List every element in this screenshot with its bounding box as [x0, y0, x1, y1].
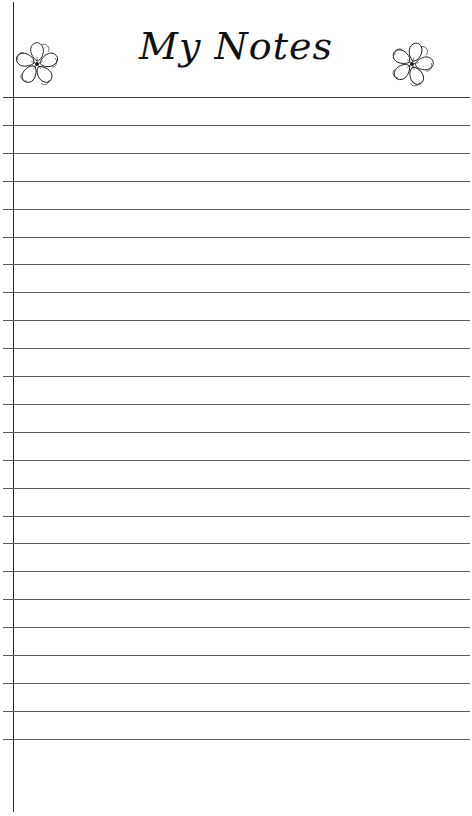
- flower-icon: [389, 40, 435, 88]
- writing-line: [3, 571, 470, 572]
- writing-line: [3, 627, 470, 628]
- writing-line: [3, 516, 470, 517]
- margin-line: [13, 2, 14, 812]
- writing-line: [3, 209, 470, 210]
- writing-line: [3, 320, 470, 321]
- writing-line: [3, 404, 470, 405]
- writing-line: [3, 237, 470, 238]
- writing-line: [3, 711, 470, 712]
- writing-line: [3, 181, 470, 182]
- notes-page: My Notes: [0, 0, 472, 816]
- writing-line: [3, 460, 470, 461]
- writing-line: [3, 655, 470, 656]
- writing-line: [3, 153, 470, 154]
- writing-line: [3, 97, 470, 98]
- writing-line: [3, 599, 470, 600]
- writing-line: [3, 432, 470, 433]
- writing-line: [3, 683, 470, 684]
- writing-line: [3, 125, 470, 126]
- writing-line: [3, 348, 470, 349]
- writing-line: [3, 543, 470, 544]
- writing-line: [3, 739, 470, 740]
- writing-line: [3, 292, 470, 293]
- writing-line: [3, 488, 470, 489]
- writing-line: [3, 264, 470, 265]
- writing-line: [3, 376, 470, 377]
